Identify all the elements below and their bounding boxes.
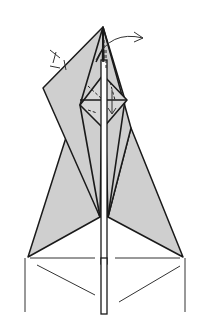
central-stick <box>101 27 107 314</box>
origami-diagram <box>0 0 205 327</box>
